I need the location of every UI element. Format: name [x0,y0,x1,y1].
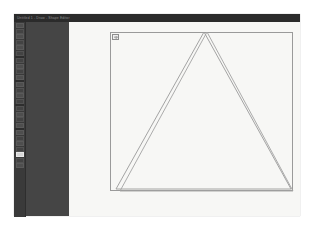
measure-icon[interactable] [16,117,24,122]
connector-icon[interactable] [16,123,24,128]
clone-icon[interactable] [16,147,24,152]
dropper-icon[interactable] [16,93,24,98]
page-sheet[interactable] [69,22,300,216]
drawing-canvas[interactable] [69,22,300,216]
outer-triangle[interactable] [116,32,291,189]
layers-icon[interactable] [16,163,24,168]
window-title: Untitled 1 - Draw - Shape Editor [14,16,70,20]
shapes-layer [110,32,293,191]
gradient-icon[interactable] [16,82,24,87]
tools-panel [14,22,69,216]
star-icon[interactable] [16,45,24,50]
spiral-icon[interactable] [16,51,24,56]
select-icon[interactable] [16,23,24,28]
node-edit-icon[interactable] [16,29,24,34]
tool-strip[interactable] [14,22,26,217]
bezier-pen-icon[interactable] [16,64,24,69]
spray-icon[interactable] [16,141,24,146]
application-window: Untitled 1 - Draw - Shape Editor [14,14,300,216]
pencil-icon[interactable] [16,58,24,63]
window-title-bar[interactable]: Untitled 1 - Draw - Shape Editor [14,14,300,22]
paint-bucket-icon[interactable] [16,99,24,104]
3dbox-icon[interactable] [16,130,24,135]
zoom-icon[interactable] [16,112,24,117]
screenshot-root: Untitled 1 - Draw - Shape Editor [0,0,313,238]
triangle-tool-icon[interactable] [16,152,24,157]
inner-triangle[interactable] [120,32,293,191]
drawing-frame[interactable] [110,32,293,191]
eraser-icon[interactable] [16,136,24,141]
page-tool-icon[interactable] [16,158,24,163]
mesh-icon[interactable] [16,88,24,93]
calligraphy-icon[interactable] [16,69,24,74]
text-icon[interactable] [16,75,24,80]
selection-corner-marker[interactable] [112,34,119,40]
ellipse-icon[interactable] [16,40,24,45]
rectangle-icon[interactable] [16,34,24,39]
tweak-icon[interactable] [16,106,24,111]
